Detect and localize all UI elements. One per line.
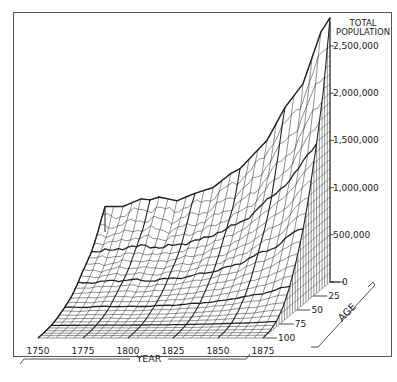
x-axis-title: YEAR: [136, 353, 162, 364]
year-tick-label: 1850: [207, 346, 230, 356]
z-tick-label: 1,500,000: [333, 135, 379, 145]
z-tick-label: 1,000,000: [333, 183, 379, 193]
z-axis-title-line2: POPULATION: [336, 27, 390, 37]
surface-mesh: [38, 18, 330, 338]
age-tick-label: 25: [328, 291, 339, 301]
age-tick-label: 50: [312, 305, 324, 315]
population-surface-chart: 0500,0001,000,0001,500,0002,000,0002,500…: [0, 0, 397, 382]
year-tick-label: 1750: [27, 346, 50, 356]
z-tick-label: 500,000: [333, 230, 370, 240]
year-tick-label: 1875: [252, 346, 275, 356]
z-tick-label: 2,000,000: [333, 88, 379, 98]
age-tick-label: 75: [295, 319, 306, 329]
z-tick-label: 2,500,000: [333, 41, 379, 51]
year-tick-label: 1775: [72, 346, 95, 356]
year-tick-label: 1825: [162, 346, 185, 356]
end-wall-1875: [263, 18, 330, 338]
y-axis-title: AGE: [336, 301, 358, 323]
age-tick-label: 100: [278, 333, 295, 343]
